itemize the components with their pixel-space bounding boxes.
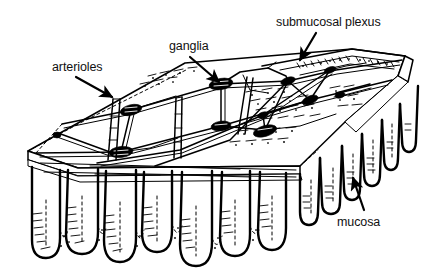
villi-front-row bbox=[32, 167, 286, 266]
villus bbox=[32, 167, 60, 258]
label-mucosa: mucosa bbox=[337, 216, 380, 229]
submucosal-plexus-illustration bbox=[0, 0, 427, 279]
villus bbox=[220, 171, 250, 256]
label-ganglia: ganglia bbox=[169, 40, 209, 53]
villus bbox=[180, 171, 212, 266]
villi-stipple bbox=[60, 227, 256, 248]
villus bbox=[104, 170, 136, 262]
villus bbox=[258, 172, 286, 250]
label-arterioles: arterioles bbox=[52, 61, 102, 74]
figure-root: submucosal plexus ganglia arterioles muc… bbox=[0, 0, 427, 279]
arrow-mucosa bbox=[353, 178, 364, 210]
arrow-arterioles bbox=[76, 77, 112, 97]
label-submucosal-plexus: submucosal plexus bbox=[276, 16, 381, 29]
villus bbox=[142, 171, 172, 252]
crypt-arcs bbox=[60, 224, 260, 245]
